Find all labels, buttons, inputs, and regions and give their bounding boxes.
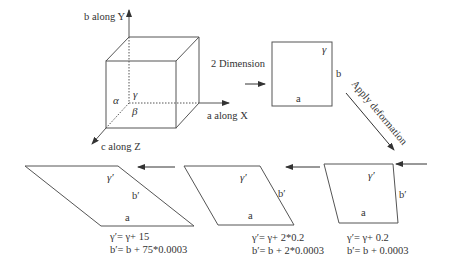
square-side-a-label: a <box>296 93 301 104</box>
angle-gamma-label: γ <box>133 88 138 100</box>
stage-1-formula-b: b′= b + 0.0003 <box>347 245 408 256</box>
y-axis-label: b along Y <box>84 11 125 22</box>
deformation-label: Apply deformation <box>349 78 409 147</box>
stage-1-side-b-label: b′ <box>399 189 407 200</box>
to-2d-label: 2 Dimension <box>211 58 266 69</box>
stage-2-side-b-label: b′ <box>278 188 286 199</box>
angle-alpha-label: α <box>113 94 119 106</box>
stage-75-angle-label: γ′ <box>107 171 114 183</box>
deformation-diagram: b along Y a along X c along Z α γ β 2 Di… <box>0 0 449 271</box>
square-side-b-label: b <box>336 68 341 79</box>
stage-1-formula-gamma: γ′= γ+ 0.2 <box>346 232 389 243</box>
stage-2-formula-gamma: γ′= γ+ 2*0.2 <box>251 232 304 243</box>
stage-1-side-a-label: a <box>361 207 366 218</box>
stage-2-side-a-label: a <box>248 210 253 221</box>
stage-2-formula-b: b′= b + 2*0.0003 <box>252 245 324 256</box>
z-axis-label: c along Z <box>101 141 141 152</box>
x-axis-label: a along X <box>207 110 248 121</box>
stage-75-formula-b: b′= b + 75*0.0003 <box>110 244 187 255</box>
stage-75-side-b-label: b′ <box>132 190 140 201</box>
stage-75-side-a-label: a <box>125 212 130 223</box>
cube-top-face <box>106 37 199 61</box>
stage-1-angle-label: γ′ <box>368 169 375 181</box>
square-angle-label: γ <box>322 43 327 55</box>
hidden-edge-depth <box>106 103 129 128</box>
cube-right-face <box>176 37 199 128</box>
unit-cell-cube <box>92 10 229 144</box>
stage-2-angle-label: γ′ <box>240 171 247 183</box>
stage-75-formula-gamma: γ′= γ+ 15 <box>109 231 149 242</box>
angle-beta-label: β <box>131 105 138 117</box>
